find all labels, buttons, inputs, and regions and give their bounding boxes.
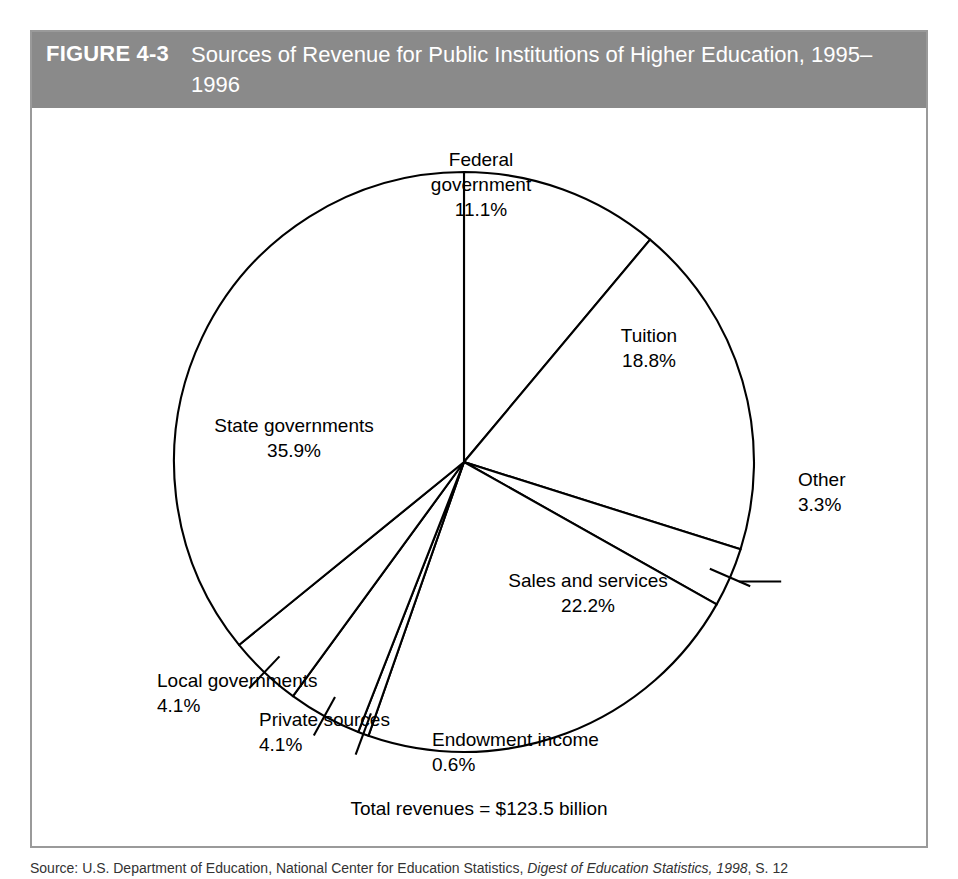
pie-label-line: 22.2%: [561, 595, 615, 616]
pie-label-line: 11.1%: [455, 199, 508, 220]
pie-label-line: Endowment income: [432, 729, 599, 750]
total-revenues-label: Total revenues = $123.5 billion: [32, 798, 926, 820]
pie-label-line: 4.1%: [259, 734, 302, 755]
pie-label-other: Other3.3%: [798, 469, 846, 515]
pie-label-line: 0.6%: [432, 754, 475, 775]
pie-label-line: government: [431, 174, 532, 195]
pie-slices-group: [174, 172, 754, 752]
pie-label-line: Sales and services: [508, 570, 667, 591]
source-note-label: Source:: [30, 860, 78, 876]
source-note-title: Digest of Education Statistics, 1998: [527, 860, 747, 876]
pie-label-line: Local governments: [157, 670, 318, 691]
pie-label-line: Federal: [449, 149, 513, 170]
pie-label-line: State governments: [214, 415, 373, 436]
figure-header-bar: FIGURE 4-3 Sources of Revenue for Public…: [32, 32, 926, 108]
source-note-text: U.S. Department of Education, National C…: [78, 860, 527, 876]
source-note: Source: U.S. Department of Education, Na…: [30, 860, 930, 876]
pie-label-line: 35.9%: [267, 440, 321, 461]
figure-frame: FIGURE 4-3 Sources of Revenue for Public…: [30, 30, 928, 848]
pie-chart-area: Federalgovernment11.1%Tuition18.8%Other3…: [32, 108, 926, 850]
pie-label-line: 18.8%: [622, 350, 676, 371]
pie-label-line: Other: [798, 469, 846, 490]
figure-number: FIGURE 4-3: [46, 40, 169, 67]
pie-label-line: 4.1%: [157, 695, 200, 716]
pie-label-line: Tuition: [621, 325, 677, 346]
pie-label-line: Private sources: [259, 709, 390, 730]
figure-title: Sources of Revenue for Public Institutio…: [191, 40, 891, 100]
source-note-tail: , S. 12: [747, 860, 787, 876]
pie-chart: Federalgovernment11.1%Tuition18.8%Other3…: [32, 108, 930, 850]
pie-label-line: 3.3%: [798, 494, 841, 515]
